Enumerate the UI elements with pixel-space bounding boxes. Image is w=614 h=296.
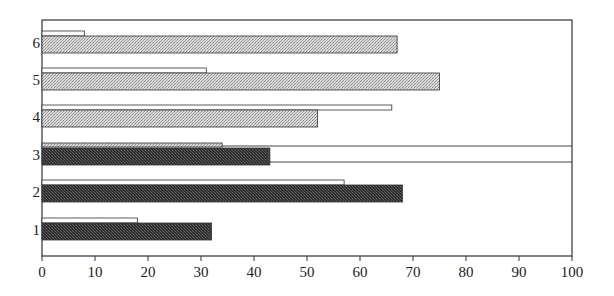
x-tick-label: 60: [353, 264, 368, 280]
y-tick-label: 4: [33, 109, 41, 125]
y-tick-label: 6: [33, 35, 41, 51]
x-tick-label: 30: [194, 264, 209, 280]
x-axis: 0102030405060708090100: [38, 256, 583, 280]
x-tick-label: 90: [512, 264, 527, 280]
bar-group-1: [42, 218, 212, 240]
y-tick-label: 3: [33, 147, 41, 163]
bar-upper-2: [42, 180, 344, 185]
bar-group-4: [42, 105, 392, 127]
bar-group-6: [42, 31, 397, 53]
x-tick-label: 80: [459, 264, 474, 280]
y-tick-label: 5: [33, 72, 41, 88]
bar-upper-1: [42, 218, 137, 223]
bar-lower-2: [42, 185, 402, 202]
bar-upper-5: [42, 68, 206, 73]
bar-group-2: [42, 180, 402, 202]
bar-group-5: [42, 68, 440, 90]
y-tick-label: 1: [33, 222, 41, 238]
bars: [42, 31, 440, 240]
x-tick-label: 40: [247, 264, 262, 280]
bar-lower-4: [42, 110, 318, 127]
bar-chart: 0102030405060708090100 123456: [0, 0, 614, 296]
x-tick-label: 20: [141, 264, 156, 280]
y-axis: 123456: [33, 35, 41, 238]
bar-upper-6: [42, 31, 84, 36]
bar-lower-6: [42, 36, 397, 53]
y-tick-label: 2: [33, 184, 41, 200]
x-tick-label: 70: [406, 264, 421, 280]
bar-lower-3: [42, 148, 270, 165]
x-tick-label: 50: [300, 264, 315, 280]
bar-lower-1: [42, 223, 212, 240]
x-tick-label: 0: [38, 264, 46, 280]
bar-upper-4: [42, 105, 392, 110]
x-tick-label: 100: [561, 264, 584, 280]
bar-lower-5: [42, 73, 440, 90]
x-tick-label: 10: [88, 264, 103, 280]
bar-upper-3: [42, 143, 222, 147]
